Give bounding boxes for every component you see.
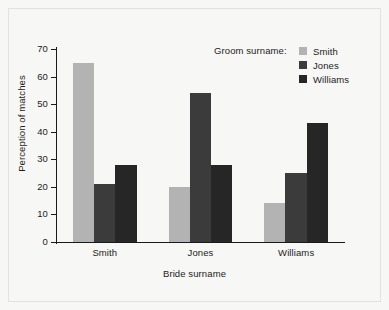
bar[interactable] bbox=[73, 63, 94, 242]
bar[interactable] bbox=[264, 203, 285, 242]
legend-swatch-icon bbox=[299, 75, 307, 83]
legend-item[interactable]: Williams bbox=[299, 72, 349, 86]
bar-group: Jones bbox=[169, 49, 233, 242]
legend-entries: SmithJonesWilliams bbox=[299, 44, 349, 86]
y-axis-tick-label: 10 bbox=[8, 209, 48, 219]
y-axis-tick bbox=[51, 77, 56, 78]
x-axis-title: Bride surname bbox=[0, 268, 389, 279]
bar-group: Smith bbox=[73, 49, 137, 242]
y-axis-tick-label: 30 bbox=[8, 154, 48, 164]
y-axis-tick-label: 50 bbox=[8, 99, 48, 109]
y-axis-tick bbox=[51, 104, 56, 105]
y-axis-tick-label: 60 bbox=[8, 72, 48, 82]
y-axis-tick bbox=[51, 159, 56, 160]
y-axis-tick-label: 40 bbox=[8, 127, 48, 137]
x-axis-group-label: Williams bbox=[264, 247, 328, 258]
legend-item[interactable]: Jones bbox=[299, 58, 349, 72]
bar[interactable] bbox=[307, 123, 328, 242]
bar-chart-figure: 010203040506070 Perception of matches Br… bbox=[0, 0, 389, 310]
legend-swatch-icon bbox=[299, 61, 307, 69]
legend-item-label: Williams bbox=[313, 74, 349, 85]
x-axis-line bbox=[56, 242, 345, 243]
legend-swatch-icon bbox=[299, 47, 307, 55]
bar[interactable] bbox=[190, 93, 211, 242]
y-axis-tick bbox=[51, 187, 56, 188]
y-axis-title: Perception of matches bbox=[16, 59, 27, 189]
bar[interactable] bbox=[211, 165, 232, 242]
y-axis-tick bbox=[51, 132, 56, 133]
y-axis-tick-label: 0 bbox=[8, 237, 48, 247]
y-axis-tick bbox=[51, 49, 56, 50]
bar[interactable] bbox=[169, 187, 190, 242]
legend-item-label: Jones bbox=[313, 60, 339, 71]
bar[interactable] bbox=[285, 173, 306, 242]
y-axis-tick-label: 20 bbox=[8, 182, 48, 192]
bar-group-bars bbox=[73, 49, 137, 242]
bar-group-bars bbox=[169, 49, 233, 242]
x-axis-group-label: Smith bbox=[73, 247, 137, 258]
legend-item-label: Smith bbox=[313, 46, 338, 57]
legend-title: Groom surname: bbox=[214, 45, 287, 56]
y-axis-tick bbox=[51, 214, 56, 215]
bar[interactable] bbox=[115, 165, 136, 242]
bar[interactable] bbox=[94, 184, 115, 242]
y-axis-tick-label: 70 bbox=[8, 44, 48, 54]
legend-item[interactable]: Smith bbox=[299, 44, 349, 58]
y-axis-tick bbox=[51, 242, 56, 243]
x-axis-group-label: Jones bbox=[169, 247, 233, 258]
